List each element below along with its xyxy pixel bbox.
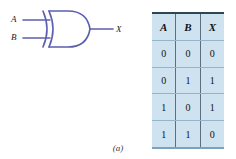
input-b-label: B bbox=[11, 33, 17, 42]
cell-a: 1 bbox=[152, 94, 176, 121]
output-x-label: X bbox=[116, 25, 122, 34]
cell-b: 0 bbox=[176, 94, 200, 121]
cell-x: 1 bbox=[200, 94, 224, 121]
input-a-label: A bbox=[11, 15, 17, 24]
table-row: 0 1 1 bbox=[152, 67, 224, 94]
gate-body-outline bbox=[49, 11, 90, 47]
cell-a: 0 bbox=[152, 67, 176, 94]
xor-gate-diagram: A B X bbox=[0, 0, 140, 60]
table-header-row: A B X bbox=[152, 13, 224, 40]
figure-caption: (a) bbox=[0, 143, 236, 153]
cell-a: 0 bbox=[152, 40, 176, 67]
table-row: 1 0 1 bbox=[152, 94, 224, 121]
column-header-b: B bbox=[176, 13, 200, 40]
table-row: 0 0 0 bbox=[152, 40, 224, 67]
cell-b: 1 bbox=[176, 67, 200, 94]
cell-x: 0 bbox=[200, 40, 224, 67]
xor-extra-arc bbox=[43, 11, 47, 47]
figure-xor-gate-and-truth-table: A B X A B X 0 0 0 0 1 1 1 0 1 bbox=[0, 0, 236, 159]
column-header-a: A bbox=[152, 13, 176, 40]
truth-table: A B X 0 0 0 0 1 1 1 0 1 1 1 0 bbox=[152, 12, 224, 149]
cell-b: 0 bbox=[176, 40, 200, 67]
cell-x: 1 bbox=[200, 67, 224, 94]
column-header-x: X bbox=[200, 13, 224, 40]
gate-back-arc bbox=[49, 11, 53, 47]
